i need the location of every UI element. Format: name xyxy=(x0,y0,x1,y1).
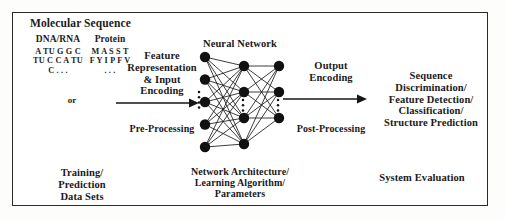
diagram-graphics xyxy=(0,0,505,219)
hidden-layer-node xyxy=(239,113,249,123)
output-layer-node xyxy=(274,61,284,71)
output-layer-node xyxy=(274,113,284,123)
diagram-canvas: Molecular Sequence DNA/RNA Protein A TU … xyxy=(0,0,505,219)
input-layer-node xyxy=(200,97,210,107)
hidden-layer-node xyxy=(239,87,249,97)
ellipsis-dot-1 xyxy=(198,96,201,99)
input-layer-node xyxy=(200,52,210,62)
ellipsis-dot-3 xyxy=(277,104,280,107)
network-edge xyxy=(205,57,244,66)
output-layer-node xyxy=(274,87,284,97)
ellipsis-dot-1 xyxy=(198,101,201,104)
network-edge xyxy=(244,66,279,144)
hidden-layer-node xyxy=(239,61,249,71)
ellipsis-dot-1 xyxy=(198,91,201,94)
input-layer-node xyxy=(200,119,210,129)
ellipsis-dot-1 xyxy=(198,106,201,109)
postprocessing-arrow xyxy=(283,94,367,103)
input-layer-node xyxy=(200,74,210,84)
ellipsis-dot-3 xyxy=(277,114,280,117)
neural-network-graph xyxy=(198,52,284,152)
network-edge xyxy=(244,118,279,144)
ellipsis-dot-2 xyxy=(242,109,245,112)
ellipsis-dot-2 xyxy=(242,114,245,117)
ellipsis-dot-3 xyxy=(277,109,280,112)
ellipsis-dot-2 xyxy=(242,99,245,102)
ellipsis-dot-3 xyxy=(277,99,280,102)
network-edge xyxy=(205,144,244,147)
ellipsis-dot-2 xyxy=(242,104,245,107)
hidden-layer-node xyxy=(239,139,249,149)
input-layer-node xyxy=(200,142,210,152)
preprocessing-arrow xyxy=(116,98,199,107)
network-edge xyxy=(205,118,244,147)
